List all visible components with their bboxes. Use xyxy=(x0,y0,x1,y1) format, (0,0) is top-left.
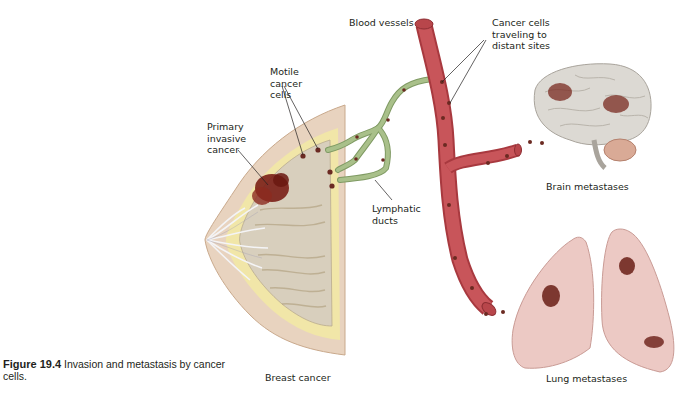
label-lymphatic-ducts: Lymphatic ducts xyxy=(372,203,421,226)
figure-number: Figure 19.4 xyxy=(3,358,61,370)
label-brain-metastases: Brain metastases xyxy=(546,181,629,193)
label-primary-invasive-cancer: Primary invasive cancer xyxy=(207,121,246,156)
blood-vessel xyxy=(415,19,544,318)
brain-illustration xyxy=(534,64,651,168)
label-cancer-cells-traveling: Cancer cells traveling to distant sites xyxy=(492,17,550,52)
figure-caption: Figure 19.4 Invasion and metastasis by c… xyxy=(3,358,233,382)
label-blood-vessels: Blood vessels xyxy=(349,17,414,29)
label-lung-metastases: Lung metastases xyxy=(546,373,627,385)
lungs-illustration xyxy=(512,229,674,372)
metastasis-illustration xyxy=(0,0,693,398)
label-breast-cancer: Breast cancer xyxy=(265,372,331,384)
label-motile-cancer-cells: Motile cancer cells xyxy=(270,66,302,101)
